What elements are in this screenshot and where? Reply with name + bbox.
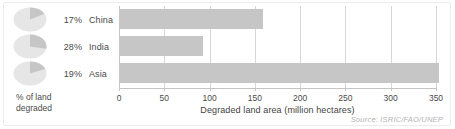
x-tick-200 — [300, 88, 301, 91]
x-tick-label-250: 250 — [338, 93, 352, 103]
pie-panel-caption: % of land degraded — [16, 92, 52, 113]
chart-figure: 17% China 28% India 19% Asia % — [0, 0, 455, 129]
x-tick-label-50: 50 — [160, 93, 169, 103]
x-tick-100 — [210, 88, 211, 91]
pie-chart-icon-india — [13, 34, 47, 59]
pie-chart-icon-asia — [13, 61, 47, 86]
x-tick-label-100: 100 — [202, 93, 216, 103]
x-tick-50 — [164, 88, 165, 91]
pie-row-asia: 19% Asia — [0, 60, 119, 87]
plot-area — [119, 6, 436, 88]
pie-row-india: 28% India — [0, 33, 119, 60]
x-tick-300 — [391, 88, 392, 91]
x-axis-line — [119, 88, 436, 89]
x-tick-label-350: 350 — [429, 93, 443, 103]
country-label-asia: Asia — [89, 69, 107, 79]
pie-percent-china: 17% — [52, 15, 82, 25]
bar-india — [119, 36, 203, 56]
x-tick-350 — [436, 88, 437, 91]
pie-wrap-china — [13, 7, 47, 32]
source-attribution: Source: ISRIC/FAO/UNEP — [351, 115, 443, 124]
pie-percent-asia: 19% — [52, 69, 82, 79]
x-tick-label-200: 200 — [293, 93, 307, 103]
x-tick-150 — [255, 88, 256, 91]
x-tick-label-300: 300 — [384, 93, 398, 103]
bar-asia — [119, 63, 439, 83]
pie-row-china: 17% China — [0, 6, 119, 33]
bar-china — [119, 9, 263, 29]
pie-wrap-india — [13, 34, 47, 59]
x-tick-label-150: 150 — [248, 93, 262, 103]
x-tick-0 — [119, 88, 120, 91]
x-tick-250 — [345, 88, 346, 91]
pie-wrap-asia — [13, 61, 47, 86]
pie-percent-india: 28% — [52, 42, 82, 52]
x-axis-label: Degraded land area (million hectares) — [119, 105, 436, 115]
pie-chart-icon-china — [13, 7, 47, 32]
x-tick-label-0: 0 — [117, 93, 122, 103]
country-label-india: India — [89, 42, 109, 52]
country-label-china: China — [89, 15, 113, 25]
pie-panel: 17% China 28% India 19% Asia % — [0, 0, 119, 129]
